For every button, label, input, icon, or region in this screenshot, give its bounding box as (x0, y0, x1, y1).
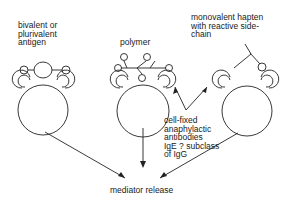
label-polymer: polymer (120, 38, 150, 47)
label-antibodies: cell-fixed anaphylactic antibodies IgE ?… (164, 116, 219, 159)
label-hapten: monovalent hapten with reactive side- ch… (191, 13, 263, 39)
label-mediator-release: mediator release (110, 186, 173, 195)
label-antigen: bivalent or plurivalent antigen (18, 21, 57, 47)
mediator-release-diagram: bivalent or plurivalent antigen polymer … (0, 0, 284, 201)
mast-cell-1 (12, 62, 125, 178)
